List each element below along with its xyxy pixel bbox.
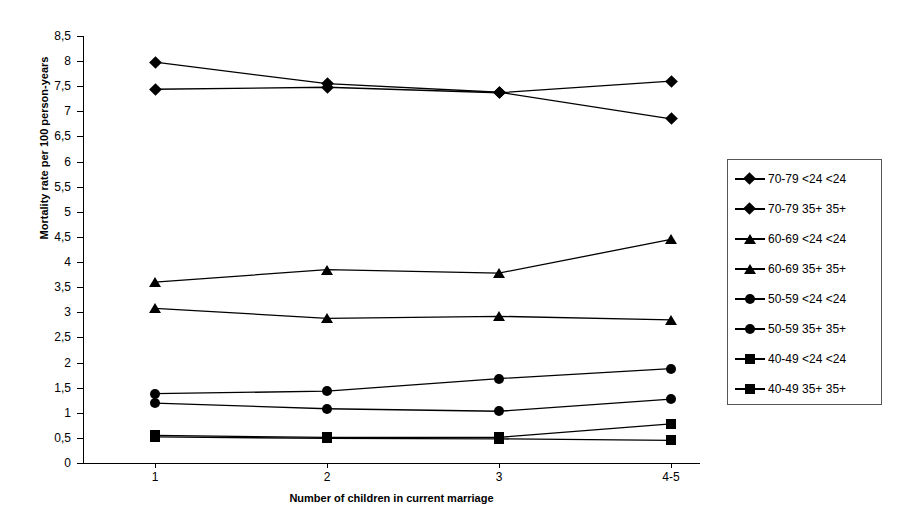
- legend-item[interactable]: 70-79 35+ 35+: [728, 194, 881, 224]
- legend-swatch-square-icon: [735, 382, 765, 396]
- series-line: [155, 81, 671, 93]
- legend-item[interactable]: 60-69 35+ 35+: [728, 254, 881, 284]
- circle-marker-icon: [745, 294, 755, 304]
- legend-item[interactable]: 70-79 <24 <24: [728, 164, 881, 194]
- data-point-triangle: [665, 234, 677, 244]
- legend-item-label: 70-79 <24 <24: [768, 172, 846, 186]
- legend-item-label: 40-49 <24 <24: [768, 352, 846, 366]
- legend-swatch-triangle-icon: [735, 232, 765, 246]
- y-tick-label: 3: [25, 307, 71, 317]
- legend-item-label: 40-49 35+ 35+: [768, 382, 846, 396]
- legend-swatch-circle-icon: [735, 292, 765, 306]
- x-tick-label: 4-5: [641, 470, 701, 484]
- y-tick-mark: [77, 413, 83, 414]
- data-point-diamond: [493, 86, 506, 99]
- data-point-triangle: [321, 313, 333, 323]
- y-tick-label: 2,5: [25, 332, 71, 342]
- legend-item[interactable]: 50-59 35+ 35+: [728, 314, 881, 344]
- legend-item[interactable]: 40-49 35+ 35+: [728, 374, 881, 404]
- y-tick-label: 1,5: [25, 383, 71, 393]
- y-tick-label: 6,5: [25, 131, 71, 141]
- x-tick-mark: [499, 463, 500, 468]
- data-point-circle: [150, 389, 160, 399]
- legend-item-label: 70-79 35+ 35+: [768, 202, 846, 216]
- series-line: [155, 62, 671, 119]
- y-tick-label: 7: [25, 106, 71, 116]
- data-point-triangle: [149, 277, 161, 287]
- y-axis-line: [83, 36, 84, 463]
- legend-swatch-triangle-icon: [735, 262, 765, 276]
- y-tick-mark: [77, 262, 83, 263]
- data-point-square: [494, 434, 504, 444]
- data-point-triangle: [665, 315, 677, 325]
- data-point-triangle: [493, 311, 505, 321]
- circle-marker-icon: [745, 324, 755, 334]
- y-axis-title: Mortality rate per 100 person-years: [38, 38, 50, 258]
- diamond-marker-icon: [743, 202, 756, 215]
- data-point-circle: [322, 386, 332, 396]
- y-tick-mark: [77, 438, 83, 439]
- chart-legend: 70-79 <24 <2470-79 35+ 35+60-69 <24 <246…: [727, 159, 882, 405]
- y-tick-label: 5: [25, 207, 71, 217]
- y-tick-mark: [77, 162, 83, 163]
- y-tick-label: 1: [25, 408, 71, 418]
- legend-item-label: 50-59 <24 <24: [768, 292, 846, 306]
- y-tick-label: 4: [25, 257, 71, 267]
- series-line: [155, 437, 671, 441]
- y-tick-mark: [77, 187, 83, 188]
- y-tick-mark: [77, 388, 83, 389]
- series-line: [155, 424, 671, 438]
- legend-item[interactable]: 40-49 <24 <24: [728, 344, 881, 374]
- x-axis-title: Number of children in current marriage: [83, 492, 700, 504]
- data-point-circle: [150, 398, 160, 408]
- data-point-square: [666, 435, 676, 445]
- x-tick-mark: [671, 463, 672, 468]
- legend-item[interactable]: 60-69 <24 <24: [728, 224, 881, 254]
- y-tick-mark: [77, 337, 83, 338]
- series-line: [155, 369, 671, 394]
- legend-item-label: 60-69 <24 <24: [768, 232, 846, 246]
- y-tick-mark: [77, 111, 83, 112]
- data-point-diamond: [149, 83, 162, 96]
- data-point-diamond: [665, 113, 678, 126]
- legend-swatch-circle-icon: [735, 322, 765, 336]
- y-tick-label: 8,5: [25, 31, 71, 41]
- y-tick-label: 4,5: [25, 232, 71, 242]
- x-tick-label: 3: [469, 470, 529, 484]
- y-tick-mark: [77, 61, 83, 62]
- y-tick-label: 7,5: [25, 81, 71, 91]
- y-tick-mark: [77, 363, 83, 364]
- y-tick-mark: [77, 287, 83, 288]
- data-point-circle: [322, 404, 332, 414]
- y-tick-mark: [77, 86, 83, 87]
- y-tick-mark: [77, 312, 83, 313]
- triangle-marker-icon: [744, 264, 756, 274]
- diamond-marker-icon: [743, 172, 756, 185]
- data-point-diamond: [665, 75, 678, 88]
- square-marker-icon: [745, 354, 755, 364]
- x-tick-mark: [327, 463, 328, 468]
- y-tick-mark: [77, 136, 83, 137]
- legend-item-label: 50-59 35+ 35+: [768, 322, 846, 336]
- data-point-circle: [666, 364, 676, 374]
- data-point-circle: [666, 394, 676, 404]
- data-point-circle: [494, 374, 504, 384]
- triangle-marker-icon: [744, 234, 756, 244]
- series-line: [155, 239, 671, 282]
- y-tick-label: 0: [25, 458, 71, 468]
- legend-item[interactable]: 50-59 <24 <24: [728, 284, 881, 314]
- data-point-square: [666, 419, 676, 429]
- y-tick-mark: [77, 212, 83, 213]
- y-tick-mark: [77, 36, 83, 37]
- y-tick-label: 5,5: [25, 182, 71, 192]
- data-point-square: [322, 433, 332, 443]
- data-point-triangle: [321, 265, 333, 275]
- y-tick-label: 3,5: [25, 282, 71, 292]
- x-tick-label: 2: [297, 470, 357, 484]
- x-tick-label: 1: [125, 470, 185, 484]
- y-tick-label: 0,5: [25, 433, 71, 443]
- y-tick-mark: [77, 237, 83, 238]
- mortality-rate-line-chart: Mortality rate per 100 person-years Numb…: [0, 0, 897, 520]
- square-marker-icon: [745, 384, 755, 394]
- data-point-triangle: [493, 268, 505, 278]
